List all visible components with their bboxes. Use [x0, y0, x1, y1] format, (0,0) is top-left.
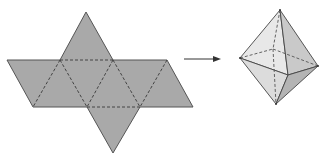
vertex-dot	[275, 103, 277, 105]
octahedron-net	[7, 12, 193, 153]
diagram-canvas	[0, 0, 326, 159]
arrow-head-icon	[213, 56, 221, 62]
vertex-dot	[317, 65, 319, 67]
octahedron-solid	[239, 9, 319, 105]
fold-arrow	[184, 56, 221, 62]
vertex-dot	[239, 57, 241, 59]
vertex-dot	[279, 9, 281, 11]
